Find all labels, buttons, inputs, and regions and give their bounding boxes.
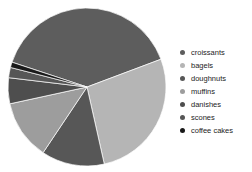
chart-legend: croissantsbagelsdoughnutsmuffinsdanishes… [176,46,233,137]
legend-label: croissants [191,46,225,59]
legend-item-muffins: muffins [176,85,233,98]
legend-swatch-icon [180,102,185,107]
legend-label: bagels [191,59,213,72]
legend-swatch-icon [180,76,185,81]
pie-chart-figure: croissantsbagelsdoughnutsmuffinsdanishes… [0,0,252,172]
legend-label: coffee cakes [191,124,233,137]
legend-label: doughnuts [191,72,226,85]
legend-swatch-icon [180,50,185,55]
legend-item-croissants: croissants [176,46,233,59]
legend-label: muffins [191,85,215,98]
legend-label: scones [191,111,215,124]
legend-item-doughnuts: doughnuts [176,72,233,85]
pie-chart-area [0,0,176,172]
legend-item-bagels: bagels [176,59,233,72]
legend-item-scones: scones [176,111,233,124]
legend-swatch-icon [180,63,185,68]
legend-label: danishes [191,98,221,111]
legend-swatch-icon [180,115,185,120]
legend-item-coffee-cakes: coffee cakes [176,124,233,137]
legend-swatch-icon [180,128,185,133]
legend-swatch-icon [180,89,185,94]
legend-item-danishes: danishes [176,98,233,111]
pie-chart [0,0,176,172]
